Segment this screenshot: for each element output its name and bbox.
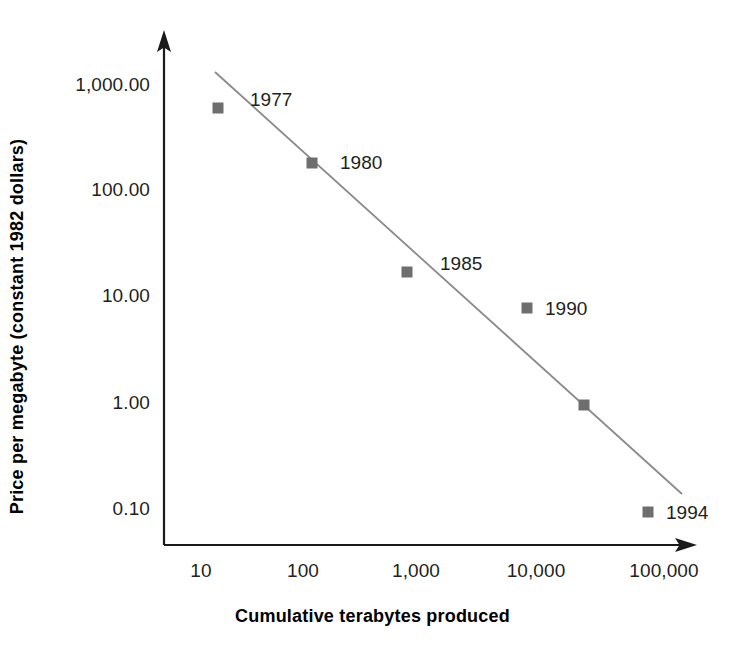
annotation-1990: 1990 xyxy=(545,298,587,320)
y-axis xyxy=(157,30,171,545)
y-axis-title: Price per megabyte (constant 1982 dollar… xyxy=(0,0,34,653)
x-axis xyxy=(164,538,697,552)
y-tick-label-1: 1.00 xyxy=(32,392,150,414)
annotation-1994: 1994 xyxy=(666,502,708,524)
chart-container: 1,000.00 100.00 10.00 1.00 0.10 10 100 1… xyxy=(0,0,745,653)
y-tick-label-10: 10.00 xyxy=(32,285,150,307)
x-tick-label-100000: 100,000 xyxy=(629,560,698,582)
x-tick-label-10: 10 xyxy=(190,560,211,582)
y-tick-label-0-1: 0.10 xyxy=(32,498,150,520)
x-tick-label-100: 100 xyxy=(287,560,319,582)
annotation-1985: 1985 xyxy=(440,253,482,275)
x-tick-label-10000: 10,000 xyxy=(507,560,566,582)
annotation-1980: 1980 xyxy=(340,152,382,174)
data-point-1994 xyxy=(643,507,654,518)
data-point-unlabeled xyxy=(579,400,590,411)
data-point-1985 xyxy=(402,267,413,278)
annotation-1977: 1977 xyxy=(250,89,292,111)
data-point-1980 xyxy=(307,158,318,169)
y-tick-label-100: 100.00 xyxy=(32,179,150,201)
y-tick-label-1000: 1,000.00 xyxy=(32,74,150,96)
data-point-1977 xyxy=(213,103,224,114)
data-markers xyxy=(213,103,654,518)
data-point-1990 xyxy=(522,303,533,314)
plot-area xyxy=(0,0,745,653)
x-tick-label-1000: 1,000 xyxy=(392,560,440,582)
trend-line xyxy=(215,72,682,494)
x-axis-title: Cumulative terabytes produced xyxy=(0,606,745,627)
